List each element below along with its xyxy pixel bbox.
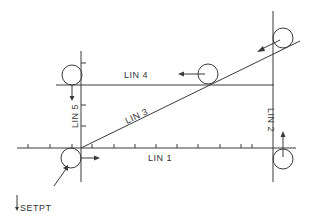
lin3-label: LIN 3: [123, 106, 149, 126]
setpt-label: SETPT: [20, 203, 52, 213]
setpt-arrow-icon: [15, 195, 19, 211]
lin2-label: LIN 2: [266, 108, 276, 132]
lin1-label: LIN 1: [148, 153, 172, 163]
roller-top-right: [273, 28, 293, 48]
roller-origin: [61, 148, 81, 168]
lin5-label: LIN 5: [70, 104, 80, 128]
arrow-up-icon: [281, 131, 286, 157]
arrow-down-icon: [70, 85, 75, 101]
arrow-right-icon: [81, 156, 100, 161]
lin1-ticks: [28, 144, 252, 148]
setpoint-pointer-icon: [54, 165, 68, 186]
lin4-label: LIN 4: [124, 70, 148, 80]
arrow-left-icon: [178, 72, 205, 77]
roller-top-left: [62, 65, 82, 85]
line-diagram: LIN 1 LIN 5 LIN 4 LIN 2 LIN 3: [0, 0, 311, 222]
